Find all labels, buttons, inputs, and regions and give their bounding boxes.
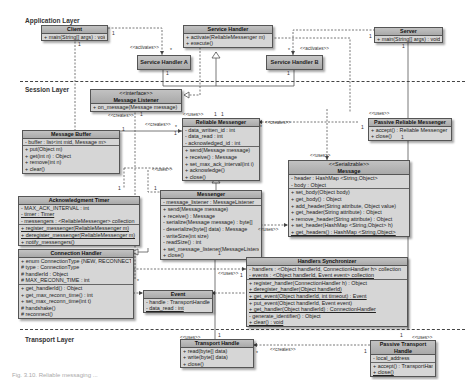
class-message-buffer[interactable]: Message Buffer - buffer : list<int mid, … — [22, 130, 120, 174]
class-transport-handle[interactable]: Transport Handle + read(byte[] data) + w… — [180, 339, 254, 368]
multiplicity: 1 — [112, 30, 115, 36]
class-name: Message Listener — [113, 97, 158, 103]
method: + set_message_listener(MessageListener m… — [163, 246, 259, 253]
method: + read(byte[] data) — [183, 348, 251, 355]
method: + receive() : Message — [185, 154, 257, 161]
method: + execute() — [186, 40, 270, 47]
attribute: - local_address — [373, 355, 433, 362]
method: + add_header(String attribute, Object va… — [291, 203, 407, 210]
attribute: - messengers : <ReliableMessenger> colle… — [21, 218, 137, 225]
class-name: Service Handler — [184, 26, 272, 34]
class-connection-handler[interactable]: Connection Handler + enum ConnectionType… — [18, 249, 134, 319]
method: + get_handler(Object handlerId) : Connec… — [249, 306, 405, 313]
relation-label-creates: <<creates>> — [270, 347, 296, 352]
method: # reconnect() — [21, 311, 131, 318]
class-name: Passive Reliable Messenger — [369, 119, 451, 127]
attribute: - handle : TransportHandle — [146, 299, 210, 306]
relation-label-uses: <<uses>> — [180, 335, 200, 340]
relation-label-uses: <<uses>> — [369, 111, 389, 116]
relation-label-uses: <<uses>> — [258, 227, 278, 232]
attribute: + enum ConnectionType {NEW, RECONNECT} — [21, 258, 131, 265]
relation-label-uses: <<uses>> — [412, 335, 432, 340]
class-name: Message Buffer — [23, 131, 119, 139]
multiplicity-many: * — [256, 350, 258, 356]
class-name: Client — [42, 26, 107, 34]
class-name: Message — [338, 168, 361, 174]
class-acknowledgment-timer[interactable]: Acknowledgment Timer - MAX_ACK_INTERVAL … — [18, 196, 140, 246]
class-handlers-synchronizer[interactable]: Handlers Synchronizer - handlers : <Obje… — [246, 257, 408, 327]
attribute: - buffer : list<int mid, Message m> — [25, 139, 117, 146]
method: + put(Object m) — [25, 146, 117, 153]
stereotype: <<Serializable>> — [291, 161, 407, 168]
method: + get_body() : Object — [291, 196, 407, 203]
class-passive-reliable-messenger[interactable]: Passive Reliable Messenger + accept() : … — [368, 118, 452, 141]
attribute: - events : <Object handlerId, Event even… — [249, 272, 405, 279]
attribute: - MAX_ACK_INTERVAL : int — [21, 205, 137, 212]
method: + receive() : Message — [163, 213, 259, 220]
relation-label-creates: <<creates>> — [145, 122, 171, 127]
class-message-listener[interactable]: <<interface>>Message Listener + on_messa… — [90, 89, 182, 112]
class-message[interactable]: <<Serializable>>Message - header : HashM… — [288, 160, 410, 237]
multiplicity: 1 — [118, 185, 121, 191]
method: + on_message(Message message) — [93, 104, 179, 111]
transport-layer-label: Transport Layer — [25, 336, 74, 343]
class-name: Handlers Synchronizer — [247, 258, 407, 266]
class-messenger[interactable]: Messenger - message_listener : MessageLi… — [160, 190, 262, 260]
method: + put_event(Object handlerId, Event even… — [249, 300, 405, 307]
session-layer-label: Session Layer — [25, 86, 69, 93]
session-transport-separator — [20, 329, 465, 330]
method: + remove(int n) — [25, 159, 117, 166]
method: + accept() : TransportHandle — [373, 363, 433, 370]
multiplicity: 1 — [364, 348, 367, 354]
method: + close() — [163, 252, 259, 259]
class-service-handler[interactable]: Service Handler + activate(ReliableMesse… — [183, 25, 273, 48]
class-name: Transport Handle — [181, 340, 253, 348]
class-name: Reliable Messenger — [183, 119, 259, 127]
method: + accept() : Reliable Messenger — [371, 127, 449, 134]
method: # handshake() — [21, 305, 131, 312]
method: + get_headers() : HashMap <String,Object… — [291, 229, 407, 236]
multiplicity: 1 — [122, 126, 125, 132]
application-layer-label: Application Layer — [25, 17, 80, 24]
method: + acknowledge() — [185, 167, 257, 174]
method: + main(String[] args) : void — [377, 36, 440, 43]
application-session-separator — [20, 81, 465, 82]
method: + clear() — [25, 166, 117, 173]
method: + get(int n) : Object — [25, 153, 117, 160]
method: + main(String[] args) : void — [44, 34, 105, 41]
multiplicity: 1 — [214, 111, 217, 117]
attribute: - data_read : int — [146, 305, 210, 312]
multiplicity: 1 — [218, 250, 221, 256]
attribute: # type : ConnectionType — [21, 264, 131, 271]
class-server[interactable]: Server + main(String[] args) : void — [374, 27, 443, 43]
method: + get_handlerId() : Object — [21, 285, 131, 292]
attribute: - timer : Timer — [21, 211, 137, 218]
attribute: # handlerId : Object — [21, 271, 131, 278]
method: + get_header(String attribute) : Object — [291, 209, 407, 216]
class-client[interactable]: Client + main(String[] args) : void — [41, 25, 108, 41]
method: - readSize() : int — [163, 239, 259, 246]
relation-label-creates: <<creates>> — [265, 120, 291, 125]
multiplicity: 1 — [154, 185, 157, 191]
method: + close() — [371, 133, 449, 140]
method: + activate(ReliableMessenger m) — [186, 34, 270, 41]
method: + remove_header(String attribute) : Obje… — [291, 216, 407, 223]
method: + register_messenger(ReliableMessenger m… — [21, 225, 137, 232]
multiplicity: 1 — [400, 332, 403, 338]
class-service-handler-a[interactable]: Service Handler A — [137, 55, 191, 70]
class-passive-transport-handle[interactable]: Passive Transport Handle - local_address… — [370, 340, 436, 377]
attribute: - message_listener : MessageListener — [163, 199, 259, 206]
class-reliable-messenger[interactable]: Reliable Messenger - data_written_id : i… — [182, 118, 260, 181]
multiplicity-many: * — [175, 124, 177, 130]
multiplicity-many: * — [260, 124, 262, 130]
class-name: Event — [144, 291, 212, 299]
class-service-handler-b[interactable]: Service Handler B — [266, 55, 323, 70]
multiplicity: 1 — [218, 332, 221, 338]
class-name: Acknowledgment Timer — [19, 197, 139, 205]
method: + deregister_handler(Object handlerId) — [249, 286, 405, 293]
relation-label-activates: <<activates>> — [300, 46, 329, 51]
attribute: - data_written_id : int — [185, 127, 257, 134]
class-event[interactable]: Event - handle : TransportHandle - data_… — [143, 290, 213, 313]
relation-label-notifies: <<uses>> — [152, 167, 172, 172]
method: - serialize(Message message) : byte[] — [163, 219, 259, 226]
